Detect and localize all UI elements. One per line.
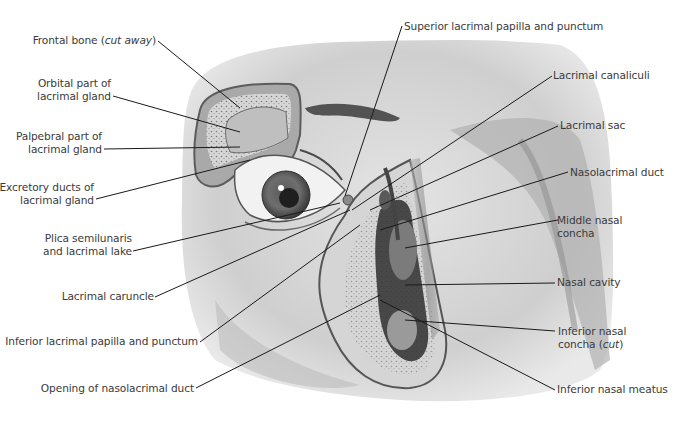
label-caruncle: Lacrimal caruncle — [62, 290, 154, 303]
label-middle-concha: Middle nasal concha — [557, 214, 622, 240]
label-excretory-ducts: Excretory ducts of lacrimal gland — [0, 181, 94, 207]
middle-concha — [389, 220, 417, 280]
pupil — [279, 188, 299, 208]
label-opening-duct: Opening of nasolacrimal duct — [41, 382, 194, 395]
label-inferior-concha: Inferior nasal concha (cut) — [558, 325, 626, 351]
label-nasolacrimal-duct: Nasolacrimal duct — [570, 166, 664, 179]
label-sac: Lacrimal sac — [560, 119, 625, 132]
lacrimal-sac — [379, 190, 391, 210]
label-inferior-meatus: Inferior nasal meatus — [557, 383, 668, 396]
label-superior-papilla: Superior lacrimal papilla and punctum — [404, 20, 603, 33]
label-canaliculi: Lacrimal canaliculi — [553, 69, 650, 82]
label-orbital-part: Orbital part of lacrimal gland — [37, 77, 111, 103]
label-plica: Plica semilunaris and lacrimal lake — [43, 232, 132, 258]
label-nasal-cavity: Nasal cavity — [557, 276, 621, 289]
label-inferior-papilla: Inferior lacrimal papilla and punctum — [5, 335, 198, 348]
label-palpebral-part: Palpebral part of lacrimal gland — [16, 130, 102, 156]
label-frontal-bone: Frontal bone (cut away) — [33, 34, 156, 47]
inferior-concha — [387, 310, 417, 350]
lacrimal-apparatus-figure: Frontal bone (cut away) Orbital part of … — [0, 0, 682, 429]
